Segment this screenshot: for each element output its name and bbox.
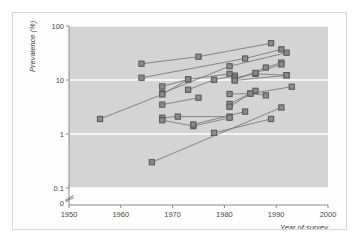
origin-tick-label: 0 (60, 199, 64, 208)
x-tick-label: 1950 (61, 210, 78, 219)
figure-frame: 0.1110100 195019601970198019902000 Preva… (12, 12, 347, 230)
x-tick-label: 1980 (216, 210, 233, 219)
x-axis-ticks: 195019601970198019902000 (61, 205, 337, 219)
prevalence-vs-year-chart: 0.1110100 195019601970198019902000 Preva… (13, 13, 346, 229)
y-tick-label: 0.1 (54, 184, 64, 193)
figure-container: 0.1110100 195019601970198019902000 Preva… (0, 0, 361, 244)
y-tick-label: 10 (56, 76, 64, 85)
x-tick-label: 1960 (112, 210, 129, 219)
x-axis-label: Year of survey (280, 223, 329, 229)
x-tick-label: 1970 (164, 210, 181, 219)
y-axis-ticks: 0.1110100 (51, 22, 69, 193)
x-tick-label: 2000 (320, 210, 337, 219)
y-tick-label: 100 (51, 22, 64, 31)
x-tick-label: 1990 (268, 210, 285, 219)
y-axis-label: Prevalence (%) (28, 20, 37, 72)
y-tick-label: 1 (60, 130, 64, 139)
